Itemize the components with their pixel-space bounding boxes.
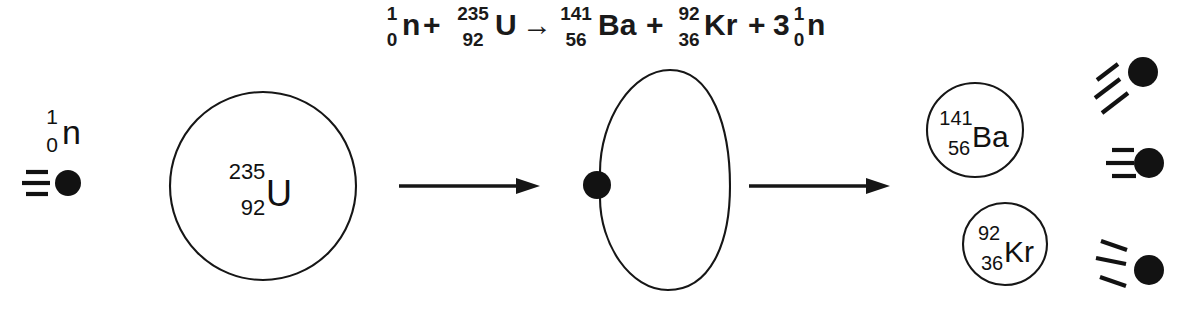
emitted-neutron-top-speed-line-2 bbox=[1095, 79, 1120, 98]
equation-neutron2-charge: 0 bbox=[794, 29, 805, 50]
arrow-capture bbox=[399, 178, 540, 194]
krypton-92-nucleus: 92 36 Kr bbox=[963, 203, 1047, 285]
emitted-neutron-bottom-speed-line-2 bbox=[1096, 258, 1126, 264]
emitted-neutron-middle-dot bbox=[1134, 148, 1164, 178]
arrow-fission bbox=[749, 178, 890, 194]
equation-plus-1: + bbox=[423, 8, 441, 41]
emitted-neutron-bottom bbox=[1096, 241, 1164, 286]
uranium-atomic-number: 92 bbox=[241, 195, 265, 220]
compound-nucleus bbox=[583, 70, 730, 290]
incident-neutron-mass-number: 1 bbox=[46, 105, 58, 128]
fission-diagram: 1 0 n + 235 92 U → 141 56 Ba + 92 36 Kr … bbox=[0, 0, 1184, 314]
equation-neutron-coefficient: 3 bbox=[773, 8, 790, 41]
arrow-fission-head bbox=[866, 178, 890, 194]
incident-neutron-atomic-number: 0 bbox=[46, 133, 58, 156]
emitted-neutron-top bbox=[1095, 57, 1158, 113]
equation-neutron-symbol: n bbox=[402, 8, 420, 41]
barium-mass-number: 141 bbox=[939, 107, 972, 129]
emitted-neutron-top-speed-line-1 bbox=[1097, 64, 1118, 80]
equation-krypton-symbol: Kr bbox=[704, 8, 738, 41]
equation-barium-charge: 56 bbox=[565, 29, 586, 50]
emitted-neutron-top-speed-line-3 bbox=[1102, 93, 1128, 113]
barium-141-nucleus: 141 56 Ba bbox=[927, 83, 1023, 177]
equation-krypton-charge: 36 bbox=[678, 29, 699, 50]
equation-uranium-mass: 235 bbox=[457, 3, 489, 24]
equation-neutron2-mass: 1 bbox=[794, 3, 805, 24]
diagram-canvas: 1 0 n + 235 92 U → 141 56 Ba + 92 36 Kr … bbox=[0, 0, 1184, 314]
incident-neutron-dot bbox=[55, 170, 81, 196]
incident-neutron-symbol: n bbox=[62, 113, 81, 151]
equation-plus-2: + bbox=[646, 8, 664, 41]
uranium-mass-number: 235 bbox=[229, 159, 266, 184]
krypton-mass-number: 92 bbox=[978, 222, 1000, 244]
emitted-neutron-middle bbox=[1106, 148, 1164, 178]
compound-nucleus-outline bbox=[600, 70, 730, 290]
equation-plus-3: + bbox=[748, 8, 766, 41]
emitted-neutron-bottom-dot bbox=[1134, 255, 1164, 285]
equation-barium-symbol: Ba bbox=[598, 8, 637, 41]
equation-uranium-charge: 92 bbox=[462, 29, 483, 50]
uranium-235-nucleus: 235 92 U bbox=[170, 92, 356, 280]
equation-neutron2-symbol: n bbox=[807, 8, 825, 41]
barium-symbol: Ba bbox=[972, 120, 1009, 153]
uranium-nucleus-outline bbox=[170, 92, 356, 280]
equation-yields-arrow: → bbox=[522, 8, 552, 41]
arrow-capture-head bbox=[516, 178, 540, 194]
equation-krypton-mass: 92 bbox=[678, 3, 699, 24]
absorbed-neutron-dot bbox=[583, 171, 611, 199]
reaction-equation: 1 0 n + 235 92 U → 141 56 Ba + 92 36 Kr … bbox=[387, 3, 826, 50]
equation-uranium-symbol: U bbox=[495, 8, 517, 41]
equation-neutron-charge: 0 bbox=[387, 29, 398, 50]
krypton-atomic-number: 36 bbox=[981, 252, 1003, 274]
uranium-symbol: U bbox=[266, 173, 292, 214]
krypton-symbol: Kr bbox=[1004, 235, 1034, 268]
emitted-neutron-top-dot bbox=[1128, 57, 1158, 87]
emitted-neutron-bottom-speed-line-1 bbox=[1101, 241, 1127, 250]
equation-neutron-mass: 1 bbox=[387, 3, 398, 24]
barium-atomic-number: 56 bbox=[948, 137, 970, 159]
emitted-neutron-bottom-speed-line-3 bbox=[1100, 277, 1126, 286]
incident-neutron-group: 1 0 n bbox=[22, 105, 81, 196]
equation-barium-mass: 141 bbox=[560, 3, 592, 24]
